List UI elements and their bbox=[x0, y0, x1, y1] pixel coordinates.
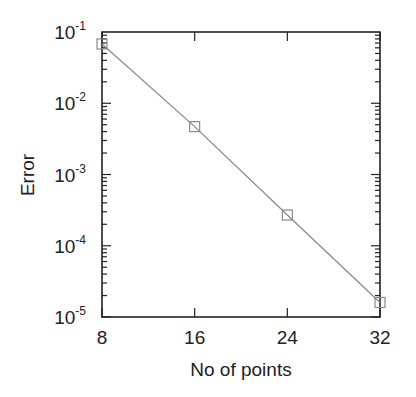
x-axis-label: No of points bbox=[190, 359, 291, 380]
x-axis-tick-labels: 8162432 bbox=[97, 327, 391, 348]
y-axis-ticks bbox=[102, 35, 380, 317]
x-tick-label: 24 bbox=[277, 327, 299, 348]
x-axis-ticks bbox=[102, 32, 380, 317]
x-tick-label: 32 bbox=[369, 327, 390, 348]
y-tick-label: 10-4 bbox=[54, 233, 86, 257]
series-line bbox=[102, 44, 380, 303]
y-tick-label: 10-3 bbox=[54, 162, 86, 186]
plot-frame bbox=[102, 32, 380, 317]
y-tick-label: 10-2 bbox=[54, 90, 86, 114]
y-axis-tick-labels: 10-110-210-310-410-5 bbox=[54, 19, 86, 328]
plot-border bbox=[102, 32, 380, 317]
error-convergence-chart: 10-110-210-310-410-5 8162432 No of point… bbox=[0, 0, 416, 397]
y-tick-label: 10-1 bbox=[54, 19, 86, 43]
y-axis-label: Error bbox=[17, 153, 38, 196]
x-tick-label: 16 bbox=[184, 327, 205, 348]
y-tick-label: 10-5 bbox=[54, 304, 86, 328]
data-series bbox=[97, 39, 385, 308]
x-tick-label: 8 bbox=[97, 327, 108, 348]
